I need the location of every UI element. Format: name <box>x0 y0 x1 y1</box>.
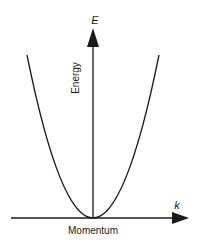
energy-momentum-diagram: E Energy k Momentum <box>0 0 199 242</box>
x-axis-label: Momentum <box>68 225 118 236</box>
y-axis-symbol: E <box>91 14 99 26</box>
x-axis-arrowhead-icon <box>172 212 189 224</box>
y-axis-label: Energy <box>70 62 81 94</box>
y-axis-arrowhead-icon <box>87 28 99 47</box>
x-axis-symbol: k <box>174 199 180 211</box>
